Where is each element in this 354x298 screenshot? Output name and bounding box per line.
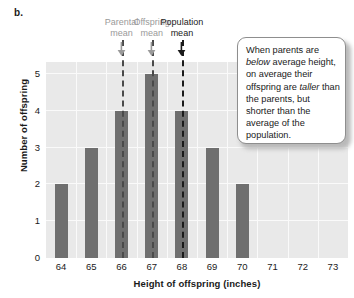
callout-box: When parents are below average height, o… [237, 37, 346, 144]
parental-mean-arrow-icon [117, 42, 126, 56]
bar-64 [55, 184, 68, 258]
population-mean-dashed-line [182, 40, 184, 258]
x-tick-67: 67 [137, 261, 167, 272]
y-tick-5: 5 [18, 68, 40, 79]
vertical-gridline [76, 62, 77, 258]
callout-segment: When parents are [246, 45, 319, 55]
bar-70 [236, 184, 249, 258]
x-tick-64: 64 [46, 261, 76, 272]
y-tick-3: 3 [18, 142, 40, 153]
y-tick-2: 2 [18, 178, 40, 189]
callout-text: When parents are below average height, o… [246, 44, 340, 142]
vertical-gridline [227, 62, 228, 258]
y-tick-4: 4 [18, 105, 40, 116]
y-tick-0: 0 [18, 252, 40, 263]
x-tick-66: 66 [107, 261, 137, 272]
x-tick-72: 72 [288, 261, 318, 272]
callout-emphasis: below [246, 57, 270, 67]
callout-emphasis: taller [299, 82, 319, 92]
y-tick-1: 1 [18, 215, 40, 226]
bar-69 [206, 148, 219, 258]
parental-mean-dashed-line [122, 40, 124, 258]
x-tick-69: 69 [197, 261, 227, 272]
x-tick-65: 65 [76, 261, 106, 272]
population-mean-label-name: Population [150, 17, 214, 28]
figure-panel-b: b. Number of offspring Height of offspri… [0, 0, 354, 298]
panel-label: b. [14, 7, 23, 18]
x-tick-71: 71 [258, 261, 288, 272]
x-tick-73: 73 [318, 261, 348, 272]
x-tick-68: 68 [167, 261, 197, 272]
x-tick-70: 70 [227, 261, 257, 272]
vertical-gridline [137, 62, 138, 258]
bar-65 [85, 148, 98, 258]
population-mean-label: Populationmean [150, 17, 214, 39]
offspring-mean-arrow-icon [147, 42, 156, 56]
vertical-gridline [197, 62, 198, 258]
vertical-gridline [106, 62, 107, 258]
offspring-mean-dashed-line [152, 40, 154, 258]
vertical-gridline [167, 62, 168, 258]
population-mean-label-mean: mean [150, 28, 214, 39]
x-axis-title: Height of offspring (inches) [46, 278, 348, 289]
population-mean-arrow-icon [177, 42, 186, 56]
